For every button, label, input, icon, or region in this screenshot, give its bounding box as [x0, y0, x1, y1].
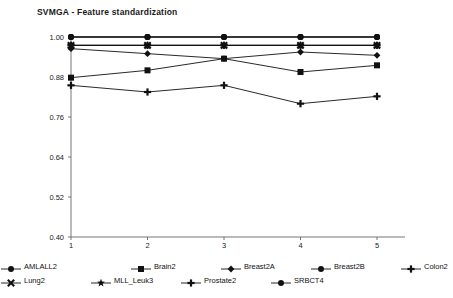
chart-series-srbct4	[68, 34, 380, 40]
legend-item-label: Brain2	[154, 261, 176, 273]
y-axis-tick-label: 0.76	[49, 113, 64, 122]
circle-marker-icon	[270, 277, 292, 289]
legend-item-label: AMLALL2	[24, 261, 57, 273]
plus-swatch-icon	[180, 275, 202, 287]
y-axis-tick-label: 0.64	[49, 153, 64, 162]
diamond-swatch-icon	[220, 261, 242, 273]
legend-item-brain2[interactable]: Brain2	[130, 260, 176, 274]
chart-series-prostate2	[67, 42, 380, 49]
xcross-swatch-icon	[0, 275, 22, 287]
legend-item-colon2[interactable]: Colon2	[400, 260, 448, 274]
legend-item-amlall2[interactable]: AMLALL2	[0, 260, 57, 274]
y-axis-tick-label: 0.88	[49, 73, 64, 82]
chart-plot-area: 0.400.520.640.760.881.0012345	[0, 0, 453, 298]
legend-item-breast2a[interactable]: Breast2A	[220, 260, 275, 274]
legend-item-label: Lung2	[24, 275, 45, 287]
legend-item-label: Prostate2	[204, 275, 236, 287]
star-swatch-icon	[90, 275, 112, 287]
star-marker-icon	[90, 277, 112, 289]
x-axis-tick-label: 2	[145, 241, 149, 250]
plus-marker-icon	[180, 277, 202, 289]
x-axis-tick-label: 3	[222, 241, 226, 250]
square-swatch-icon	[130, 261, 152, 273]
y-axis-tick-label: 0.40	[49, 233, 64, 242]
x-axis-tick-label: 5	[375, 241, 379, 250]
x-axis-tick-label: 1	[69, 241, 73, 250]
x-axis-tick-label: 4	[298, 241, 302, 250]
legend-item-label: Colon2	[424, 261, 448, 273]
chart-series-group	[67, 34, 381, 107]
xcross-marker-icon	[0, 277, 22, 289]
legend-row-2: Lung2MLL_Leuk3Prostate2SRBCT4	[0, 274, 453, 288]
chart-legend: AMLALL2Brain2Breast2ABreast2BColon2 Lung…	[0, 260, 453, 296]
circle-swatch-icon	[270, 275, 292, 287]
legend-item-mll_leuk3[interactable]: MLL_Leuk3	[90, 274, 153, 288]
chart-container: SVMGA - Feature standardization 0.400.52…	[0, 0, 453, 298]
legend-item-label: MLL_Leuk3	[114, 275, 153, 287]
chart-axes: 0.400.520.640.760.881.0012345	[49, 33, 405, 250]
circle-swatch-icon	[310, 261, 332, 273]
plus-swatch-icon	[400, 261, 422, 273]
y-axis-tick-label: 1.00	[49, 33, 64, 42]
legend-item-prostate2[interactable]: Prostate2	[180, 274, 236, 288]
legend-item-breast2b[interactable]: Breast2B	[310, 260, 365, 274]
legend-item-lung2[interactable]: Lung2	[0, 274, 45, 288]
legend-item-label: Breast2B	[334, 261, 365, 273]
chart-series-colon2	[67, 82, 380, 108]
y-axis-tick-label: 0.52	[49, 193, 64, 202]
legend-item-srbct4[interactable]: SRBCT4	[270, 274, 324, 288]
legend-item-label: SRBCT4	[294, 275, 324, 287]
legend-item-label: Breast2A	[244, 261, 275, 273]
legend-row-1: AMLALL2Brain2Breast2ABreast2BColon2	[0, 260, 453, 274]
circle-swatch-icon	[0, 261, 22, 273]
